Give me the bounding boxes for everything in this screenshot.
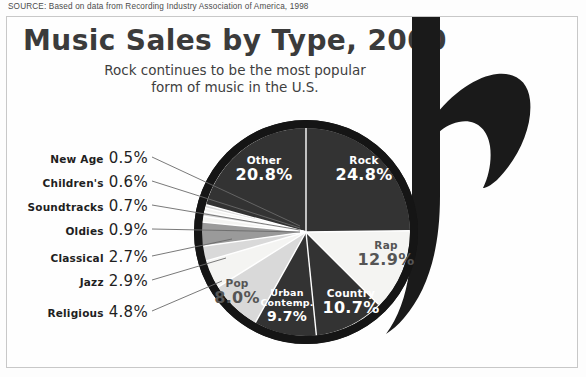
pie-label-other[interactable]: Other 20.8% — [222, 155, 306, 184]
pie-label-value: 12.9% — [348, 251, 424, 268]
callout-value: 0.7% — [109, 197, 148, 215]
pie-label-value: 10.7% — [314, 299, 388, 316]
callout-soundtracks[interactable]: Soundtracks 0.7% — [28, 197, 149, 215]
callout-value: 0.5% — [109, 149, 148, 167]
callout-label: Oldies — [65, 225, 103, 237]
pie-label-urban-contemp[interactable]: Urban Contemp. 9.7% — [254, 288, 320, 324]
callout-label: Children's — [43, 177, 104, 189]
callout-label: Religious — [47, 307, 103, 319]
note-flag-icon — [432, 14, 530, 188]
callout-label: Classical — [50, 252, 103, 264]
pie-label-name-line2: Contemp. — [254, 298, 320, 308]
callout-new-age[interactable]: New Age 0.5% — [50, 149, 148, 167]
callout-label: Soundtracks — [28, 201, 104, 213]
callout-value: 2.7% — [109, 248, 148, 266]
callout-jazz[interactable]: Jazz 2.9% — [80, 272, 148, 290]
callout-childrens[interactable]: Children's 0.6% — [43, 173, 148, 191]
callout-oldies[interactable]: Oldies 0.9% — [65, 221, 148, 239]
callout-religious[interactable]: Religious 4.8% — [47, 303, 148, 321]
pie-label-rap[interactable]: Rap 12.9% — [348, 240, 424, 269]
callout-value: 4.8% — [109, 303, 148, 321]
callout-value: 0.6% — [109, 173, 148, 191]
callout-label: Jazz — [80, 276, 104, 288]
callout-value: 2.9% — [109, 272, 148, 290]
pie-label-value: 9.7% — [254, 309, 320, 324]
pie-label-rock[interactable]: Rock 24.8% — [322, 155, 406, 184]
pie-label-country[interactable]: Country 10.7% — [314, 288, 388, 317]
pie-label-value: 20.8% — [222, 166, 306, 183]
pie-label-value: 24.8% — [322, 166, 406, 183]
chart-canvas: SOURCE: Based on data from Recording Ind… — [0, 0, 586, 377]
callout-classical[interactable]: Classical 2.7% — [50, 248, 148, 266]
callout-label: New Age — [50, 153, 103, 165]
callout-value: 0.9% — [109, 221, 148, 239]
